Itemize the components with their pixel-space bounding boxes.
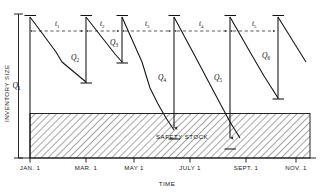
- t3-sub: 3: [147, 24, 150, 29]
- safety-stock-label: SAFETY STOCK: [156, 133, 208, 140]
- svg-text:t3: t3: [145, 20, 150, 29]
- x-tick-labels: JAN. 1 MAR. 1 MAY 1 JULY 1 SEPT. 1 NOV. …: [20, 164, 307, 171]
- cycle-time-labels: t1 t2 t3 t4 t5: [55, 20, 257, 29]
- t1-sub: 1: [57, 24, 60, 29]
- q1-sub: 1: [18, 85, 21, 91]
- q2-sub: 2: [76, 57, 79, 63]
- svg-text:Q6: Q6: [262, 51, 270, 61]
- chart-svg: t1 t2 t3 t4 t5 Q1 Q2 Q3 Q4 Q5 Q6 SAFETY …: [0, 0, 327, 194]
- t4-sub: 4: [201, 24, 204, 29]
- q5-sub: 5: [219, 77, 222, 83]
- x-tick-label-may: MAY 1: [124, 164, 144, 171]
- svg-text:Q5: Q5: [214, 73, 222, 83]
- q3-sub: 3: [115, 42, 118, 48]
- x-tick-marks: [30, 158, 296, 163]
- t5-sub: 5: [254, 24, 257, 29]
- x-axis-label: TIME: [159, 180, 176, 187]
- svg-text:t4: t4: [199, 20, 204, 29]
- inventory-chart-figure: t1 t2 t3 t4 t5 Q1 Q2 Q3 Q4 Q5 Q6 SAFETY …: [0, 0, 327, 194]
- svg-text:Q2: Q2: [71, 53, 79, 63]
- x-tick-label-jan: JAN. 1: [20, 164, 41, 171]
- x-tick-label-nov: NOV. 1: [285, 164, 307, 171]
- replenishment-arrow-q3: [117, 16, 129, 64]
- x-tick-label-mar: MAR. 1: [75, 164, 98, 171]
- svg-text:t1: t1: [55, 20, 60, 29]
- y-axis-label: INVENTORY SIZE: [3, 64, 10, 122]
- svg-text:t5: t5: [252, 20, 257, 29]
- t2-sub: 2: [102, 24, 105, 29]
- svg-text:Q3: Q3: [110, 38, 118, 48]
- svg-text:t2: t2: [100, 20, 105, 29]
- replenishment-arrow-q6: [273, 16, 285, 100]
- x-tick-label-sept: SEPT. 1: [234, 164, 259, 171]
- svg-text:Q4: Q4: [158, 73, 166, 83]
- svg-text:Q1: Q1: [13, 81, 21, 91]
- q4-sub: 4: [163, 77, 166, 83]
- x-tick-label-july: JULY 1: [179, 164, 201, 171]
- replenishment-arrow-q2: [81, 16, 93, 84]
- q6-sub: 6: [267, 55, 270, 61]
